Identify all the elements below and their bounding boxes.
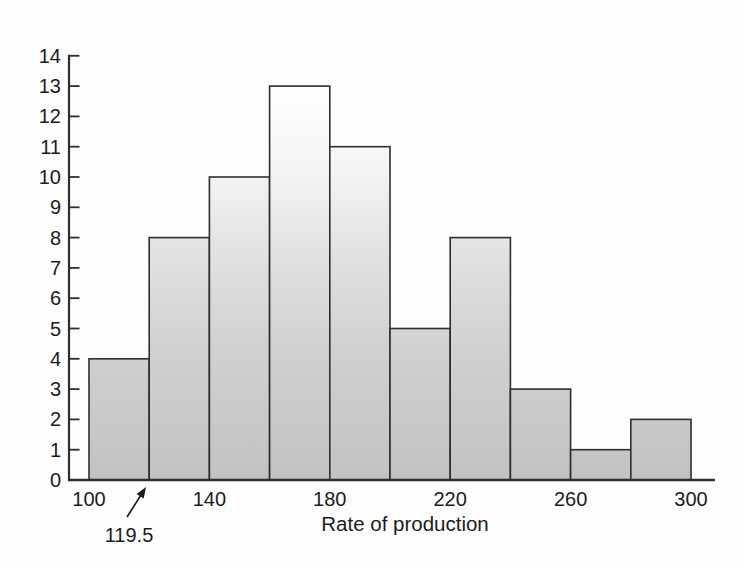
x-axis-tick-label: 260 (554, 488, 587, 510)
histogram-bar (330, 147, 390, 480)
y-axis-tick-label: 14 (39, 45, 61, 67)
y-axis-tick-label: 0 (50, 469, 61, 491)
y-axis-tick-label: 3 (50, 378, 61, 400)
x-axis-title: Rate of production (321, 512, 489, 535)
y-axis-tick-label: 12 (39, 105, 61, 127)
histogram-bar (510, 389, 570, 480)
histogram-figure: 01234567891011121314100140180220260300Ra… (0, 0, 745, 570)
y-axis-tick-label: 10 (39, 166, 61, 188)
x-axis-tick-label: 140 (193, 488, 226, 510)
y-axis-tick-label: 5 (50, 318, 61, 340)
x-axis-tick-label: 300 (674, 488, 707, 510)
histogram-bar (450, 238, 510, 480)
histogram-bar (571, 450, 631, 480)
histogram-bar (390, 329, 450, 481)
y-axis-tick-label: 7 (50, 257, 61, 279)
histogram-bar (270, 86, 330, 480)
y-axis-tick-label: 2 (50, 408, 61, 430)
y-axis-tick-label: 9 (50, 196, 61, 218)
histogram-bar (89, 359, 149, 480)
histogram-chart: 01234567891011121314100140180220260300Ra… (0, 0, 745, 570)
histogram-bar (209, 177, 269, 480)
histogram-bar (631, 419, 691, 480)
y-axis-tick-label: 11 (40, 136, 61, 158)
x-axis-tick-label: 220 (434, 488, 467, 510)
y-axis-tick-label: 8 (50, 227, 61, 249)
x-axis-tick-label: 180 (313, 488, 346, 510)
x-axis-tick-label: 100 (72, 488, 105, 510)
y-axis-tick-label: 13 (39, 75, 61, 97)
annotation-arrowhead-icon (137, 487, 146, 499)
y-axis-tick-label: 4 (50, 348, 61, 370)
histogram-bar (149, 238, 209, 480)
annotation-label: 119.5 (105, 524, 154, 546)
y-axis-tick-label: 1 (50, 439, 61, 461)
y-axis-tick-label: 6 (50, 287, 61, 309)
